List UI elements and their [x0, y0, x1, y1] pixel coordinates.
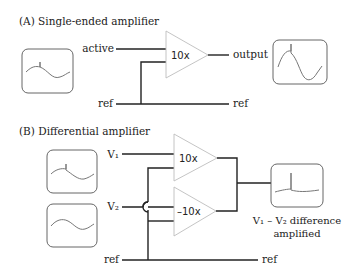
input-label-v2: V₂ [106, 200, 119, 212]
scope-a-output [273, 40, 327, 84]
input-label-v1: V₁ [106, 148, 119, 160]
amplifier-diagram: (A) Single-ended amplifier active ref 10… [0, 0, 354, 273]
ref-label-a-left: ref [98, 97, 114, 109]
wire-amp-outputs [216, 158, 237, 211]
caption-line1: V₁ – V₂ difference [252, 215, 341, 226]
amplifier-b2: –10x [174, 187, 216, 236]
panel-a-single-ended: (A) Single-ended amplifier active ref 10… [19, 15, 327, 109]
gain-label-b1: 10x [179, 153, 198, 164]
scope-a-input [22, 49, 73, 93]
wire-ref-to-amp [141, 62, 166, 104]
wire-ref-to-amp1 [148, 168, 174, 202]
scope-b-v2 [47, 204, 97, 247]
scope-b-output [271, 164, 323, 207]
amplifier-a: 10x [166, 31, 208, 78]
input-label-active: active [82, 42, 114, 54]
panel-b-title: (B) Differential amplifier [19, 125, 151, 137]
ref-label-a-right: ref [233, 97, 249, 109]
amplifier-b1: 10x [174, 134, 217, 181]
output-label: output [233, 48, 269, 60]
gain-label-a: 10x [171, 50, 190, 61]
ref-label-b-left: ref [104, 253, 120, 265]
ref-label-b-right: ref [262, 253, 278, 265]
scope-b-v1 [47, 150, 97, 193]
panel-a-title: (A) Single-ended amplifier [19, 15, 160, 27]
caption-line2: amplified [273, 228, 321, 239]
panel-b-differential: (B) Differential amplifier V₁ V₂ ref 10x [19, 125, 341, 265]
gain-label-b2: –10x [177, 206, 201, 217]
